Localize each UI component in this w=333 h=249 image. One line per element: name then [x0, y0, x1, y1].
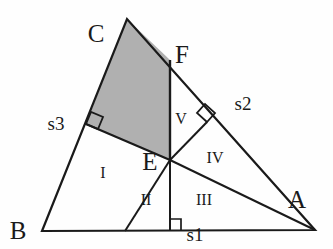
vertex-label-A: A	[288, 186, 306, 213]
region-label-V: V	[175, 110, 187, 127]
perpendicular-E-to-CA	[170, 122, 207, 160]
vertex-label-F: F	[175, 41, 189, 68]
geometry-figure: C B A F E s1 s2 s3 I II III IV V	[0, 0, 333, 249]
region-label-IV: IV	[207, 149, 224, 166]
figure-canvas: C B A F E s1 s2 s3 I II III IV V	[0, 0, 333, 249]
side-label-s3: s3	[48, 113, 65, 134]
right-angle-mark-s1	[170, 219, 181, 231]
region-label-III: III	[196, 191, 212, 208]
vertex-label-C: C	[88, 20, 105, 47]
region-label-II: II	[141, 191, 152, 208]
side-label-s2: s2	[235, 93, 252, 114]
side-label-s1: s1	[187, 224, 204, 245]
region-label-I: I	[100, 164, 105, 181]
vertex-label-B: B	[10, 217, 27, 244]
vertex-label-E: E	[142, 148, 157, 175]
